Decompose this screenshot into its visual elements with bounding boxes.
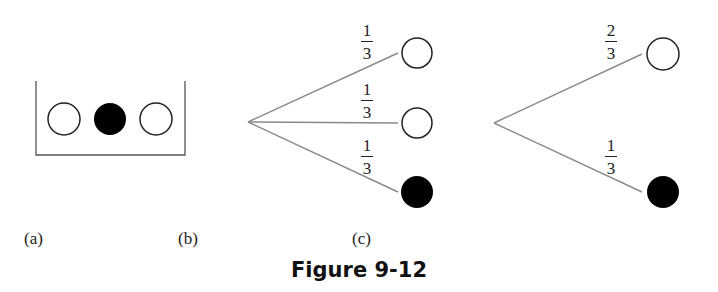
branch-line	[248, 53, 398, 122]
probability-label: 1 3	[359, 137, 375, 177]
branch-line	[494, 54, 642, 123]
probability-label: 1 3	[603, 137, 619, 177]
fraction-bar	[361, 41, 373, 42]
fraction-denominator: 3	[359, 104, 375, 121]
panel-c-label: (c)	[352, 229, 371, 249]
black-ball-icon	[401, 176, 433, 208]
panel-c-tree	[494, 38, 679, 208]
fraction-numerator: 1	[359, 81, 375, 98]
fraction-bar	[605, 41, 617, 42]
white-ball-icon	[402, 108, 432, 138]
fraction-numerator: 2	[603, 22, 619, 39]
fraction-numerator: 1	[359, 22, 375, 39]
white-ball-icon	[48, 103, 80, 135]
probability-label: 2 3	[603, 22, 619, 62]
branch-line	[494, 123, 642, 192]
black-ball-icon	[94, 103, 126, 135]
fraction-bar	[361, 156, 373, 157]
fraction-denominator: 3	[359, 45, 375, 62]
fraction-numerator: 1	[359, 137, 375, 154]
panel-b-tree	[248, 38, 433, 208]
white-ball-icon	[140, 103, 172, 135]
fraction-denominator: 3	[603, 160, 619, 177]
probability-label: 1 3	[359, 22, 375, 62]
branch-line	[248, 122, 398, 192]
probability-label: 1 3	[359, 81, 375, 121]
fraction-numerator: 1	[603, 137, 619, 154]
black-ball-icon	[647, 176, 679, 208]
white-ball-icon	[402, 38, 432, 68]
fraction-bar	[605, 156, 617, 157]
branch-line	[248, 122, 398, 123]
fraction-bar	[361, 100, 373, 101]
panel-a-urn	[36, 81, 185, 155]
panel-a-label: (a)	[24, 229, 43, 249]
fraction-denominator: 3	[603, 45, 619, 62]
panel-b-label: (b)	[178, 229, 198, 249]
fraction-denominator: 3	[359, 160, 375, 177]
white-ball-icon	[647, 38, 679, 70]
figure-caption: Figure 9-12	[0, 258, 718, 282]
